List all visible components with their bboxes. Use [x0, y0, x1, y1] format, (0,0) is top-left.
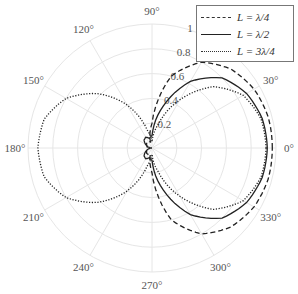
angle-tick-label: 90°: [144, 5, 159, 17]
angle-tick-label: 180°: [5, 142, 26, 154]
radial-tick-label: 0.2: [158, 118, 172, 130]
angle-tick-label: 0°: [284, 142, 294, 154]
angle-tick-label: 210°: [23, 211, 44, 223]
polar-chart: 0°30°60°90°120°150°180°210°240°270°300°3…: [0, 0, 298, 294]
legend: L = λ/4 L = λ/2 L = 3λ/4: [196, 5, 294, 62]
legend-item-three-quarter: L = 3λ/4: [201, 44, 275, 58]
legend-item-quarter: L = λ/4: [201, 10, 269, 24]
angle-tick-label: 330°: [260, 211, 281, 223]
legend-item-half: L = λ/2: [201, 27, 269, 41]
angle-tick-label: 30°: [263, 74, 278, 86]
angle-tick-label: 300°: [210, 261, 231, 273]
angle-tick-label: 150°: [23, 74, 44, 86]
radial-tick-label: 1: [187, 22, 193, 34]
radial-tick-label: 0.6: [170, 70, 184, 82]
radial-tick-label: 0.8: [177, 46, 191, 58]
angle-tick-label: 240°: [73, 261, 94, 273]
angle-tick-label: 120°: [73, 23, 94, 35]
angle-tick-label: 270°: [142, 279, 163, 291]
